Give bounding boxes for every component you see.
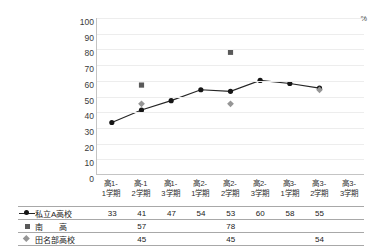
x-tick-line2: 1学期 xyxy=(102,189,120,198)
y-tick-100: 100 xyxy=(80,18,94,27)
x-tick-6: 高3-1学期 xyxy=(275,179,305,199)
legend-circle-line-icon xyxy=(19,209,35,217)
data-point-circle xyxy=(169,98,174,103)
table-value-r0-c6: 58 xyxy=(275,207,305,220)
gridline xyxy=(97,128,364,129)
table-row: 田名部高校454554 xyxy=(18,233,364,246)
data-point-circle xyxy=(109,120,114,125)
plot-area xyxy=(96,18,364,175)
table-value-r1-c2 xyxy=(157,220,187,233)
table-value-r1-c4: 78 xyxy=(216,220,246,233)
y-tick-70: 70 xyxy=(85,65,94,74)
gridline xyxy=(97,159,364,160)
y-tick-90: 90 xyxy=(85,34,94,43)
table-row: 南 高5778 xyxy=(18,220,364,233)
table-value-r0-c5: 60 xyxy=(245,207,275,220)
gridline xyxy=(97,81,364,82)
x-tick-line1: 高2- xyxy=(193,179,207,188)
x-tick-5: 高2-3学期 xyxy=(245,179,275,199)
table-value-r2-c7: 54 xyxy=(305,233,335,246)
x-tick-2: 高1-3学期 xyxy=(156,179,186,199)
gridline xyxy=(97,112,364,113)
table-value-r1-c3 xyxy=(186,220,216,233)
table-value-r1-c0 xyxy=(97,220,127,233)
legend-value-table: 私立A高校3341475453605855南 高5778田名部高校454554 xyxy=(18,206,364,246)
gridline xyxy=(97,34,364,35)
table-value-r1-c5 xyxy=(245,220,275,233)
y-tick-0: 0 xyxy=(89,175,94,184)
table-value-r1-c1: 57 xyxy=(127,220,157,233)
x-tick-line2: 1学期 xyxy=(191,189,209,198)
gridline xyxy=(97,144,364,145)
legend-cell-1: 南 高 xyxy=(18,220,97,233)
clipped-header-strip: ・・・・・・・・・・・ ・・・・ ・・・・・・・ xyxy=(0,0,371,7)
table-value-r2-c3 xyxy=(186,233,216,246)
x-tick-line2: 2学期 xyxy=(310,189,328,198)
x-tick-line2: 2学期 xyxy=(221,189,239,198)
data-point-circle xyxy=(228,89,233,94)
data-point-square xyxy=(228,50,233,55)
table-value-r0-c0: 33 xyxy=(97,207,127,220)
x-axis-tick-labels: 高1-1学期高-12学期高1-3学期高2-1学期高2-2学期高2-3学期高3-1… xyxy=(96,179,364,203)
y-tick-40: 40 xyxy=(85,112,94,121)
gridline xyxy=(97,18,364,19)
legend-cell-0: 私立A高校 xyxy=(18,207,97,220)
data-point-circle xyxy=(198,87,203,92)
legend-diamond-icon xyxy=(19,235,35,243)
table-value-r2-c2 xyxy=(157,233,187,246)
x-tick-1: 高-12学期 xyxy=(126,179,156,199)
table-value-r0-c4: 53 xyxy=(216,207,246,220)
y-tick-30: 30 xyxy=(85,128,94,137)
y-axis-tick-labels: 1009080706050403020100 xyxy=(62,15,94,175)
x-tick-line1: 高3- xyxy=(312,179,326,188)
table-value-r0-c7: 55 xyxy=(305,207,335,220)
data-point-diamond xyxy=(138,100,145,107)
gridline xyxy=(97,97,364,98)
y-tick-50: 50 xyxy=(85,97,94,106)
table-value-r2-c4: 45 xyxy=(216,233,246,246)
data-point-diamond xyxy=(227,100,234,107)
legend-label: 南 高 xyxy=(35,221,67,232)
x-tick-line2: 3学期 xyxy=(161,189,179,198)
x-tick-3: 高2-1学期 xyxy=(185,179,215,199)
table-row: 私立A高校3341475453605855 xyxy=(18,207,364,220)
table-value-r0-c1: 41 xyxy=(127,207,157,220)
x-tick-line1: 高-1 xyxy=(134,179,148,188)
legend-label: 私立A高校 xyxy=(35,208,72,219)
x-tick-line1: 高3- xyxy=(342,179,356,188)
x-tick-line1: 高1- xyxy=(164,179,178,188)
table-value-r2-c1: 45 xyxy=(127,233,157,246)
table-value-r1-c8 xyxy=(334,220,364,233)
x-tick-line1: 高2- xyxy=(223,179,237,188)
table-value-r0-c2: 47 xyxy=(157,207,187,220)
x-tick-line2: 2学期 xyxy=(132,189,150,198)
y-tick-10: 10 xyxy=(85,159,94,168)
x-tick-8: 高3-3学期 xyxy=(334,179,364,199)
clipped-header-text: ・・・・・・・・・・・ ・・・・ ・・・・・・・ xyxy=(8,0,259,5)
x-tick-line1: 高2- xyxy=(253,179,267,188)
x-tick-7: 高3-2学期 xyxy=(304,179,334,199)
legend-square-icon xyxy=(19,222,35,230)
x-tick-line1: 高1- xyxy=(104,179,118,188)
x-tick-0: 高1-1学期 xyxy=(96,179,126,199)
data-point-square xyxy=(139,82,144,87)
gridline xyxy=(97,65,364,66)
table-value-r1-c6 xyxy=(275,220,305,233)
data-table: 私立A高校3341475453605855南 高5778田名部高校454554 xyxy=(18,206,364,244)
table-value-r2-c5 xyxy=(245,233,275,246)
line-chart: % 1009080706050403020100 高1-1学期高-12学期高1-… xyxy=(0,7,371,205)
x-tick-line2: 1学期 xyxy=(280,189,298,198)
y-tick-80: 80 xyxy=(85,49,94,58)
table-value-r2-c8 xyxy=(334,233,364,246)
table-value-r0-c3: 54 xyxy=(186,207,216,220)
x-tick-line1: 高3- xyxy=(283,179,297,188)
table-value-r1-c7 xyxy=(305,220,335,233)
legend-cell-2: 田名部高校 xyxy=(18,233,97,246)
x-tick-4: 高2-2学期 xyxy=(215,179,245,199)
x-tick-line2: 3学期 xyxy=(340,189,358,198)
y-tick-60: 60 xyxy=(85,81,94,90)
legend-label: 田名部高校 xyxy=(35,234,75,245)
table-value-r0-c8 xyxy=(334,207,364,220)
x-tick-line2: 3学期 xyxy=(251,189,269,198)
y-tick-20: 20 xyxy=(85,144,94,153)
